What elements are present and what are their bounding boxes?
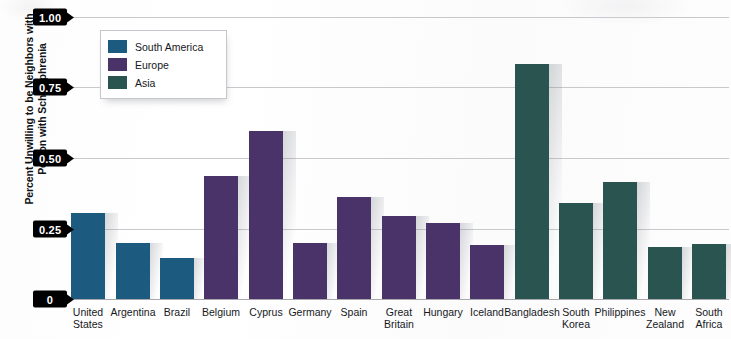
- bar-label-line: Britain: [384, 318, 414, 330]
- bar-label-line: Germany: [288, 306, 331, 318]
- bar-south-africa[interactable]: [692, 244, 726, 299]
- bar-hungary[interactable]: [426, 223, 460, 299]
- bar-group-south-africa[interactable]: South Africa: [692, 17, 726, 299]
- bar-label-line: Zealand: [646, 318, 684, 330]
- bar-label-line: Cyprus: [249, 306, 282, 318]
- bar-label-line: South: [562, 306, 590, 318]
- bar-label-spain: Spain: [341, 306, 368, 318]
- bar-label-line: South: [695, 306, 722, 318]
- y-tick-0.50: 0.50: [33, 150, 67, 167]
- bar-south-korea[interactable]: [559, 203, 593, 299]
- bar-label-line: New: [646, 306, 684, 318]
- legend-swatch-icon: [108, 58, 127, 71]
- bar-label-line: United: [73, 306, 103, 318]
- bar-label-united-states: United States: [73, 306, 103, 330]
- bar-brazil[interactable]: [160, 258, 194, 299]
- bar-label-brazil: Brazil: [164, 306, 190, 318]
- y-axis-title-line-1: Percent Unwilling to be Neighbors with: [23, 0, 36, 237]
- bar-label-hungary: Hungary: [423, 306, 463, 318]
- bar-label-line: Philippines: [595, 306, 646, 318]
- bar-label-argentina: Argentina: [111, 306, 156, 318]
- bar-label-line: Spain: [341, 306, 368, 318]
- bar-label-line: Great: [384, 306, 414, 318]
- bar-group-iceland[interactable]: Iceland: [470, 17, 504, 299]
- bar-group-new-zealand[interactable]: New Zealand: [648, 17, 682, 299]
- bar-group-germany[interactable]: Germany: [293, 17, 327, 299]
- legend-label-south-america: South America: [135, 41, 203, 53]
- bar-group-bangladesh[interactable]: Bangladesh: [515, 17, 549, 299]
- bar-group-spain[interactable]: Spain: [337, 17, 371, 299]
- bar-label-south-africa: South Africa: [695, 306, 722, 330]
- y-tick-0.75: 0.75: [33, 79, 67, 96]
- y-tick-0.25: 0.25: [33, 221, 67, 238]
- bar-label-line: Africa: [695, 318, 722, 330]
- legend-swatch-icon: [108, 40, 127, 53]
- y-tick-0: 0: [33, 291, 67, 308]
- bar-bangladesh[interactable]: [515, 64, 549, 299]
- bar-label-line: States: [73, 318, 103, 330]
- bar-label-germany: Germany: [288, 306, 331, 318]
- bar-iceland[interactable]: [470, 245, 504, 299]
- bar-label-line: Belgium: [202, 306, 240, 318]
- y-axis-title: Percent Unwilling to be Neighbors with P…: [23, 0, 49, 237]
- bar-label-south-korea: South Korea: [562, 306, 590, 330]
- bar-great-britain[interactable]: [382, 216, 416, 299]
- bar-label-new-zealand: New Zealand: [646, 306, 684, 330]
- bar-label-line: Brazil: [164, 306, 190, 318]
- bar-label-belgium: Belgium: [202, 306, 240, 318]
- legend-label-europe: Europe: [135, 59, 169, 71]
- bar-label-line: Bangladesh: [504, 306, 559, 318]
- legend-swatch-icon: [108, 76, 127, 89]
- bar-label-great-britain: Great Britain: [384, 306, 414, 330]
- bar-label-cyprus: Cyprus: [249, 306, 282, 318]
- bar-group-great-britain[interactable]: Great Britain: [382, 17, 416, 299]
- bar-new-zealand[interactable]: [648, 247, 682, 299]
- bar-group-south-korea[interactable]: South Korea: [559, 17, 593, 299]
- bar-label-line: Korea: [562, 318, 590, 330]
- legend-item-asia[interactable]: Asia: [108, 74, 218, 91]
- bar-chart: Percent Unwilling to be Neighbors with P…: [0, 0, 731, 339]
- bar-germany[interactable]: [293, 243, 327, 299]
- bar-argentina[interactable]: [116, 243, 150, 299]
- bar-group-hungary[interactable]: Hungary: [426, 17, 460, 299]
- legend-item-europe[interactable]: Europe: [108, 56, 218, 73]
- legend-label-asia: Asia: [135, 77, 155, 89]
- bar-cyprus[interactable]: [249, 131, 283, 299]
- legend-item-south-america[interactable]: South America: [108, 38, 218, 55]
- y-axis-title-line-2: Person with Schizophrenia: [36, 0, 49, 237]
- bar-spain[interactable]: [337, 197, 371, 299]
- bar-belgium[interactable]: [204, 176, 238, 299]
- bar-group-cyprus[interactable]: Cyprus: [249, 17, 283, 299]
- bar-united-states[interactable]: [71, 213, 105, 299]
- bar-group-philippines[interactable]: Philippines: [603, 17, 637, 299]
- bar-label-line: Iceland: [470, 306, 504, 318]
- bar-label-philippines: Philippines: [595, 306, 646, 318]
- bar-philippines[interactable]: [603, 182, 637, 299]
- legend: South America Europe Asia: [100, 30, 227, 99]
- bar-label-line: Argentina: [111, 306, 156, 318]
- bar-label-bangladesh: Bangladesh: [504, 306, 559, 318]
- y-tick-1.00: 1.00: [33, 9, 67, 26]
- bar-label-line: Hungary: [423, 306, 463, 318]
- bar-label-iceland: Iceland: [470, 306, 504, 318]
